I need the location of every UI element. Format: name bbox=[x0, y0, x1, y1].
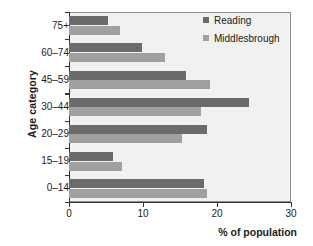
x-tick-label: 30 bbox=[276, 208, 306, 219]
y-tick-mark bbox=[65, 66, 69, 67]
bar bbox=[69, 98, 249, 107]
x-tick-mark bbox=[143, 203, 144, 207]
chart-legend: Reading Middlesbrough bbox=[203, 14, 280, 50]
legend-swatch-icon bbox=[203, 17, 209, 23]
bar bbox=[69, 80, 210, 89]
y-tick-label: 15–19 bbox=[17, 155, 69, 166]
y-tick-mark bbox=[65, 175, 69, 176]
bar bbox=[69, 125, 207, 134]
y-tick-mark bbox=[65, 39, 69, 40]
bar bbox=[69, 53, 165, 62]
y-tick-mark bbox=[65, 121, 69, 122]
x-tick-mark bbox=[217, 203, 218, 207]
legend-item-middlesbrough[interactable]: Middlesbrough bbox=[203, 32, 280, 44]
y-tick-mark bbox=[65, 148, 69, 149]
x-tick-mark bbox=[291, 203, 292, 207]
bar bbox=[69, 71, 186, 80]
y-tick-mark bbox=[65, 93, 69, 94]
bar bbox=[69, 107, 201, 116]
x-tick-label: 0 bbox=[54, 208, 84, 219]
y-tick-label: 45–59 bbox=[17, 74, 69, 85]
y-tick-label: 60–74 bbox=[17, 47, 69, 58]
x-axis-title: % of population bbox=[0, 226, 297, 238]
bar-chart: Age category 0–1415–1920–2930–4445–5960–… bbox=[0, 0, 313, 246]
legend-swatch-icon bbox=[203, 35, 209, 41]
x-axis-line bbox=[69, 202, 292, 203]
bar bbox=[69, 26, 120, 35]
y-tick-label: 20–29 bbox=[17, 128, 69, 139]
bar bbox=[69, 152, 113, 161]
bar bbox=[69, 179, 204, 188]
y-tick-label: 0–14 bbox=[17, 182, 69, 193]
bar bbox=[69, 43, 142, 52]
bar bbox=[69, 189, 207, 198]
legend-item-reading[interactable]: Reading bbox=[203, 14, 280, 26]
bar bbox=[69, 134, 182, 143]
legend-label: Middlesbrough bbox=[214, 33, 280, 44]
bar bbox=[69, 162, 122, 171]
bar bbox=[69, 16, 108, 25]
y-tick-mark bbox=[65, 12, 69, 13]
y-tick-label: 75+ bbox=[17, 20, 69, 31]
x-tick-label: 20 bbox=[202, 208, 232, 219]
legend-label: Reading bbox=[214, 15, 251, 26]
y-tick-label: 30–44 bbox=[17, 101, 69, 112]
x-tick-mark bbox=[69, 203, 70, 207]
x-tick-label: 10 bbox=[128, 208, 158, 219]
